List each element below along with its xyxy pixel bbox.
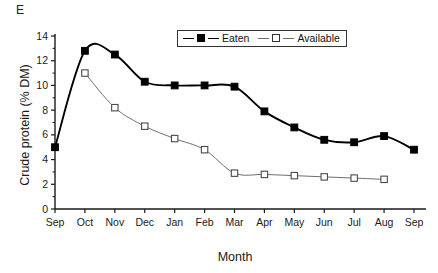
svg-text:Dec: Dec xyxy=(135,216,154,228)
svg-text:Oct: Oct xyxy=(77,216,93,228)
legend-item-available: Available xyxy=(258,33,339,44)
legend-label: Available xyxy=(297,33,339,44)
svg-text:Apr: Apr xyxy=(256,216,273,228)
legend-label: Eaten xyxy=(222,33,249,44)
legend-line-icon xyxy=(183,38,194,39)
chart-legend: Eaten Available xyxy=(177,30,347,47)
svg-text:6: 6 xyxy=(42,128,48,140)
legend-item-eaten: Eaten xyxy=(183,33,249,44)
svg-text:Mar: Mar xyxy=(225,216,244,228)
svg-text:2: 2 xyxy=(42,178,48,190)
svg-text:Feb: Feb xyxy=(196,216,214,228)
legend-line-icon xyxy=(258,38,269,39)
filled-square-icon xyxy=(197,34,205,42)
svg-text:10: 10 xyxy=(36,79,48,91)
svg-text:Jan: Jan xyxy=(166,216,183,228)
open-square-icon xyxy=(272,34,280,42)
x-axis-label: Month xyxy=(55,250,415,264)
svg-text:12: 12 xyxy=(36,54,48,66)
svg-text:Aug: Aug xyxy=(375,216,394,228)
legend-line-icon xyxy=(208,38,219,39)
svg-text:Jul: Jul xyxy=(347,216,360,228)
svg-text:Sep: Sep xyxy=(405,216,424,228)
svg-text:0: 0 xyxy=(42,203,48,215)
svg-text:May: May xyxy=(284,216,305,228)
svg-text:Nov: Nov xyxy=(105,216,124,228)
svg-text:14: 14 xyxy=(36,30,48,42)
chart-figure: E Crude protein (% DM) 02468101214SepOct… xyxy=(0,0,438,273)
legend-line-icon xyxy=(283,38,294,39)
svg-text:Jun: Jun xyxy=(316,216,333,228)
svg-text:4: 4 xyxy=(42,153,48,165)
svg-text:8: 8 xyxy=(42,104,48,116)
svg-text:Sep: Sep xyxy=(46,216,65,228)
